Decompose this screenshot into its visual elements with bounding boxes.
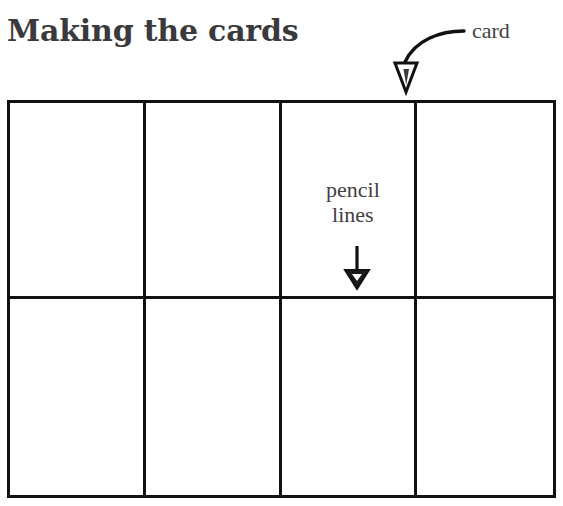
card-arrow-curve <box>405 31 464 62</box>
card-annotation-label: card <box>472 18 510 43</box>
card-cell <box>417 299 553 495</box>
diagram-page: Making the cards card pencil lines <box>0 0 563 506</box>
card-arrowhead-inner-mark <box>404 69 410 85</box>
card-cell <box>146 103 282 299</box>
card-cell <box>417 103 553 299</box>
card-arrowhead-icon <box>395 63 417 92</box>
page-title: Making the cards <box>7 13 298 49</box>
card-grid <box>7 100 556 498</box>
card-cell <box>10 299 146 495</box>
card-cell <box>10 103 146 299</box>
card-cell <box>282 299 418 495</box>
pencil-lines-annotation-label: pencil lines <box>326 177 380 227</box>
card-cell <box>146 299 282 495</box>
